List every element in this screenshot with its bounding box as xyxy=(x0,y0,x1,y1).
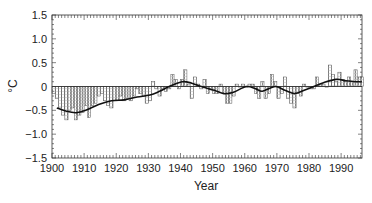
anomaly-bar xyxy=(344,82,347,87)
anomaly-bar xyxy=(293,87,296,108)
anomaly-bar xyxy=(126,87,129,99)
anomaly-bar xyxy=(290,87,293,104)
anomaly-bar xyxy=(58,87,61,108)
y-axis-title: °C xyxy=(6,79,20,93)
x-tick-label: 1940 xyxy=(168,162,192,174)
anomaly-bar xyxy=(203,79,206,86)
x-tick-label: 1950 xyxy=(200,162,224,174)
y-tick-label: 1.0 xyxy=(32,33,47,45)
temperature-anomaly-chart: 1.51.00.50−0.5−1.0−1.5 19001910192019301… xyxy=(0,0,372,203)
anomaly-bar xyxy=(225,87,228,104)
anomaly-bar xyxy=(222,87,225,94)
anomaly-bar xyxy=(81,87,84,113)
anomaly-bar xyxy=(123,87,126,101)
anomaly-bar xyxy=(264,87,267,99)
anomaly-bar xyxy=(65,87,68,120)
x-tick-label: 1900 xyxy=(40,162,64,174)
x-tick-label: 1910 xyxy=(72,162,96,174)
anomaly-bar xyxy=(184,70,187,87)
anomaly-bar xyxy=(94,87,97,104)
anomaly-bar xyxy=(68,87,71,111)
x-tick-label: 1930 xyxy=(136,162,160,174)
anomaly-bar xyxy=(97,87,100,97)
anomaly-bar xyxy=(110,87,113,108)
anomaly-bar xyxy=(354,70,357,87)
anomaly-bar xyxy=(113,87,116,101)
anomaly-bar xyxy=(103,87,106,101)
anomaly-bars xyxy=(52,65,364,120)
x-tick-label: 1990 xyxy=(329,162,353,174)
anomaly-bar xyxy=(142,87,145,97)
anomaly-bar xyxy=(100,87,103,94)
anomaly-bar xyxy=(181,79,184,86)
x-tick-label: 1960 xyxy=(233,162,257,174)
anomaly-bar xyxy=(148,87,151,101)
anomaly-bar xyxy=(258,87,261,99)
y-tick-label: 0 xyxy=(41,81,47,93)
anomaly-bar xyxy=(107,87,110,106)
anomaly-bar xyxy=(229,87,232,104)
anomaly-bar xyxy=(335,82,338,87)
x-axis-title: Year xyxy=(194,179,218,193)
anomaly-bar xyxy=(328,65,331,86)
anomaly-bar xyxy=(283,77,286,87)
y-tick-label: 1.5 xyxy=(32,9,47,21)
anomaly-bar xyxy=(87,87,90,118)
y-tick-label: 0.5 xyxy=(32,57,47,69)
y-tick-label: −0.5 xyxy=(25,104,47,116)
x-tick-label: 1970 xyxy=(265,162,289,174)
anomaly-bar xyxy=(91,87,94,106)
anomaly-bar xyxy=(190,87,193,99)
x-tick-label: 1920 xyxy=(104,162,128,174)
anomaly-bar xyxy=(139,87,142,94)
anomaly-bar xyxy=(55,87,58,99)
x-tick-label: 1980 xyxy=(297,162,321,174)
anomaly-bar xyxy=(351,82,354,87)
anomaly-bar xyxy=(270,75,273,87)
anomaly-bar xyxy=(71,87,74,108)
y-tick-label: −1.0 xyxy=(25,128,47,140)
anomaly-bar xyxy=(78,87,81,116)
anomaly-bar xyxy=(52,87,55,94)
anomaly-bar xyxy=(84,87,87,106)
anomaly-bar xyxy=(116,87,119,101)
anomaly-bar xyxy=(119,87,122,97)
anomaly-bar xyxy=(74,87,77,120)
anomaly-bar xyxy=(132,87,135,97)
anomaly-bar xyxy=(261,82,264,87)
anomaly-bar xyxy=(152,82,155,87)
